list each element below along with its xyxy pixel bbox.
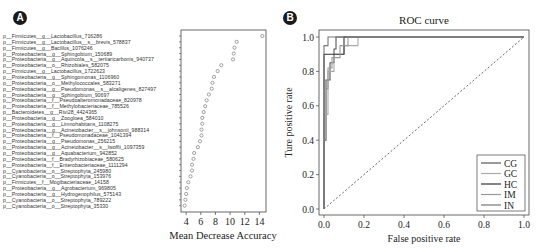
y-tick-label: 0.2	[302, 170, 314, 180]
x-tick-label: 1.0	[518, 220, 530, 230]
x-tick-label: 0.4	[398, 220, 410, 230]
legend-label: CG	[504, 159, 517, 169]
legend-label: HC	[504, 180, 517, 190]
roc-chart: ROC curve0.00.20.40.60.81.00.00.20.40.60…	[0, 0, 540, 252]
chart-title: ROC curve	[399, 14, 449, 26]
x-tick-label: 0.2	[358, 220, 370, 230]
y-tick-label: 0.6	[302, 101, 314, 111]
x-axis-label: False positive rate	[388, 233, 461, 244]
y-tick-label: 1.0	[302, 33, 314, 43]
x-tick-label: 0.8	[478, 220, 490, 230]
x-tick-label: 0.6	[438, 220, 450, 230]
legend-label: IN	[504, 201, 514, 211]
y-tick-label: 0.4	[302, 136, 314, 146]
y-tick-label: 0.0	[302, 205, 314, 215]
legend-label: GC	[504, 169, 517, 179]
figure: A B p__Firmicutes__g__Lactobacillus_7162…	[0, 0, 540, 252]
legend-label: IM	[504, 190, 516, 200]
y-axis-label: Ture positive rate	[283, 87, 294, 158]
y-tick-label: 0.8	[302, 67, 314, 77]
x-tick-label: 0.0	[318, 220, 330, 230]
